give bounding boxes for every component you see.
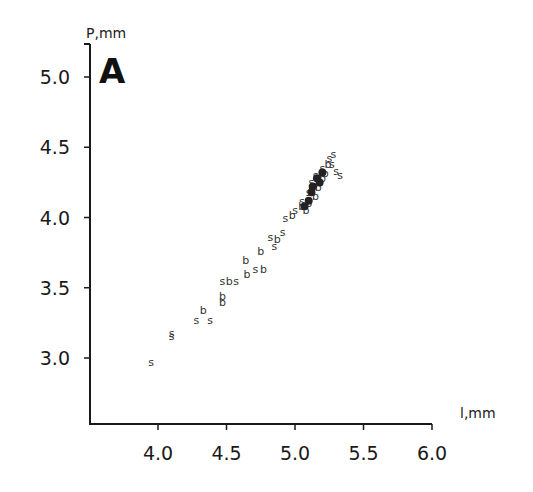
- data-point-b: b: [257, 245, 264, 258]
- data-point-b: b: [289, 209, 296, 222]
- data-point-s: s: [330, 148, 336, 161]
- data-point-s: s: [252, 263, 258, 276]
- data-point-b: b: [324, 158, 331, 171]
- x-tick-label: 4.0: [143, 442, 173, 464]
- data-point-s: s: [267, 231, 273, 244]
- data-point-b: b: [260, 263, 267, 276]
- x-tick-label: 4.5: [211, 442, 241, 464]
- y-axis-title: P,mm: [86, 25, 126, 41]
- data-point-b: b: [244, 268, 251, 281]
- y-tick-label: 4.5: [40, 136, 70, 158]
- data-point-s: s: [148, 356, 154, 369]
- y-tick-label: 4.0: [40, 207, 70, 229]
- data-point-s: s: [280, 226, 286, 239]
- x-tick-label: 5.0: [280, 442, 310, 464]
- data-point-s: s: [207, 314, 213, 327]
- data-point-s: s: [337, 169, 343, 182]
- x-tick-label: 5.5: [348, 442, 378, 464]
- dense-point-cluster: [307, 188, 315, 196]
- dense-point-cluster: [318, 169, 326, 177]
- data-point-b: b: [242, 254, 249, 267]
- data-point-s: s: [169, 330, 175, 343]
- y-tick-label: 3.0: [40, 347, 70, 369]
- x-ticks: 4.04.55.05.56.0: [143, 424, 447, 464]
- data-point-s: s: [233, 275, 239, 288]
- scatter-chart: 4.04.55.05.56.0 3.03.54.04.55.0 P,mm l,m…: [0, 0, 533, 492]
- x-axis-title: l,mm: [460, 405, 496, 421]
- data-point-s: s: [283, 212, 289, 225]
- y-ticks: 3.03.54.04.55.0: [40, 66, 90, 369]
- data-point-b: b: [274, 233, 281, 246]
- dense-point-cluster: [316, 178, 324, 186]
- y-tick-label: 5.0: [40, 66, 70, 88]
- x-tick-label: 6.0: [417, 442, 447, 464]
- data-point-b: b: [226, 275, 233, 288]
- data-point-b: b: [219, 290, 226, 303]
- dense-point-cluster: [301, 202, 309, 210]
- y-tick-label: 3.5: [40, 277, 70, 299]
- data-point-b: b: [200, 304, 207, 317]
- data-point-s: s: [193, 314, 199, 327]
- data-point-s: s: [220, 275, 226, 288]
- data-points: sssssssssssssssssssssssbbbbbbbbbbbbbbbbb…: [148, 148, 343, 369]
- panel-label: A: [99, 51, 126, 91]
